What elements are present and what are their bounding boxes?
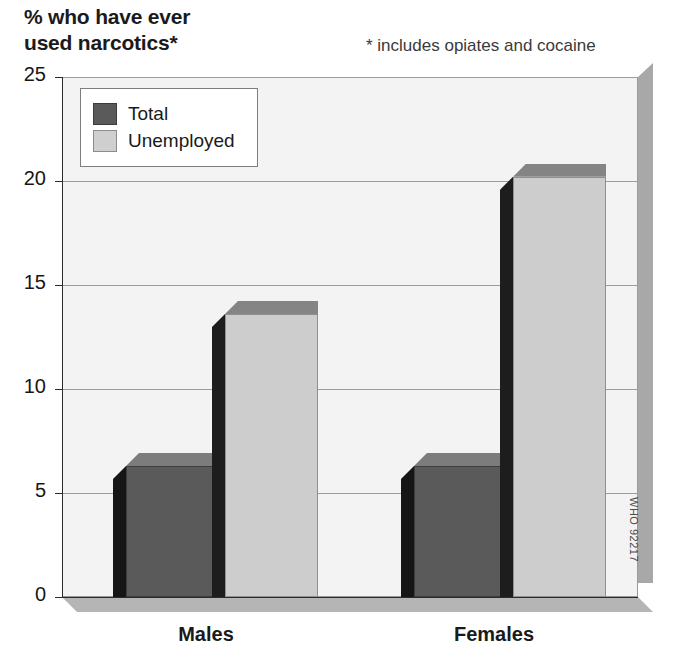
bar-front-face	[126, 466, 219, 597]
bar-side-face	[401, 466, 414, 597]
bar-females-total	[414, 453, 507, 597]
legend-label-total: Total	[128, 103, 168, 125]
x-axis-line	[62, 597, 638, 598]
legend-item-total: Total	[93, 103, 235, 125]
chart-title: % who have ever used narcotics*	[24, 4, 354, 55]
bar-side-face	[500, 177, 513, 597]
bar-top-face	[126, 453, 219, 466]
bar-top-face	[225, 301, 318, 314]
bar-front-face	[225, 314, 318, 597]
legend-swatch-total	[93, 103, 117, 125]
chart-title-line-1: % who have ever	[24, 4, 354, 30]
bar-top-face	[414, 453, 507, 466]
y-tick-label-20: 20	[0, 167, 46, 190]
bar-front-face	[414, 466, 507, 597]
legend-label-unemployed: Unemployed	[128, 130, 235, 152]
plot-depth-right-wall	[638, 63, 653, 583]
y-tick-label-5: 5	[0, 479, 46, 502]
bar-side-face	[212, 314, 225, 597]
bar-males-unemployed	[225, 301, 318, 597]
chart-footnote: * includes opiates and cocaine	[366, 36, 596, 56]
plot-depth-floor	[62, 597, 653, 612]
legend-swatch-unemployed	[93, 130, 117, 152]
chart-title-line-2: used narcotics*	[24, 30, 354, 56]
chart-canvas: % who have ever used narcotics* * includ…	[0, 0, 674, 666]
bar-side-face	[113, 466, 126, 597]
bar-males-total	[126, 453, 219, 597]
category-label-females: Females	[350, 623, 638, 646]
bar-females-unemployed	[513, 164, 606, 597]
bar-top-face	[513, 164, 606, 177]
who-credit: WHO 92217	[628, 497, 640, 562]
category-label-males: Males	[62, 623, 350, 646]
y-tick-label-0: 0	[0, 583, 46, 606]
y-tick-label-25: 25	[0, 63, 46, 86]
y-axis-line	[62, 77, 63, 597]
gridline-25	[62, 77, 638, 78]
chart-legend: Total Unemployed	[80, 88, 258, 167]
y-tick-label-15: 15	[0, 271, 46, 294]
y-tick-label-10: 10	[0, 375, 46, 398]
legend-item-unemployed: Unemployed	[93, 130, 235, 152]
bar-front-face	[513, 177, 606, 597]
